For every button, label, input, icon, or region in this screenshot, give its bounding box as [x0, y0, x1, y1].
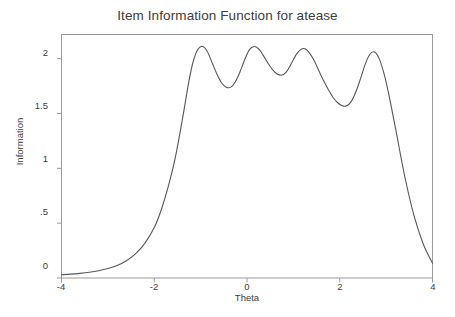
chart-container: Item Information Function for atease Inf…	[0, 0, 455, 317]
information-curve	[62, 46, 433, 274]
plot-frame	[62, 35, 433, 279]
axis-tick-marks	[57, 59, 433, 283]
plot-svg	[0, 0, 455, 317]
